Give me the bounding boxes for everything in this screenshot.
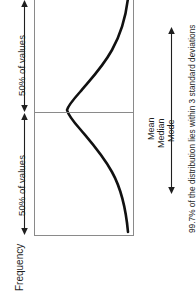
three-sigma-span-arrow: [166, 27, 177, 194]
lower-half-label: 50% of values: [17, 155, 27, 216]
center-reference-line: [34, 112, 134, 113]
mode-label: Mode: [167, 119, 176, 142]
mean-label: Mean: [147, 117, 156, 140]
upper-half-label: 50% of values: [17, 35, 27, 96]
y-axis-label: Frequency: [15, 244, 25, 291]
three-sigma-label: 99.7% of the distribution lies within 3 …: [188, 25, 196, 233]
distribution-figure: 50% of values 50% of values Frequency Me…: [0, 0, 196, 293]
bell-curve: [34, 0, 134, 236]
median-label: Median: [157, 118, 166, 148]
